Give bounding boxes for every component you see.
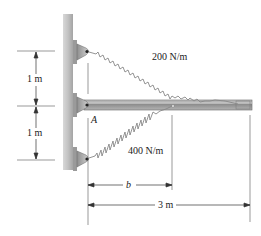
spring-label-400: 400 N/m: [128, 146, 163, 156]
bracket-bottom: [73, 147, 89, 171]
statics-diagram: [0, 0, 261, 236]
dimension-label-lower: 1 m: [27, 128, 42, 138]
dimension-label-length: 3 m: [158, 200, 173, 210]
bracket-top: [73, 40, 89, 64]
dimension-label-b: b: [126, 180, 131, 190]
point-a-label: A: [91, 115, 97, 125]
reference-lines: [17, 51, 250, 225]
spring-label-200: 200 N/m: [152, 52, 187, 62]
bracket-a: [73, 93, 89, 117]
dimension-label-upper: 1 m: [27, 74, 42, 84]
wall: [63, 14, 73, 170]
